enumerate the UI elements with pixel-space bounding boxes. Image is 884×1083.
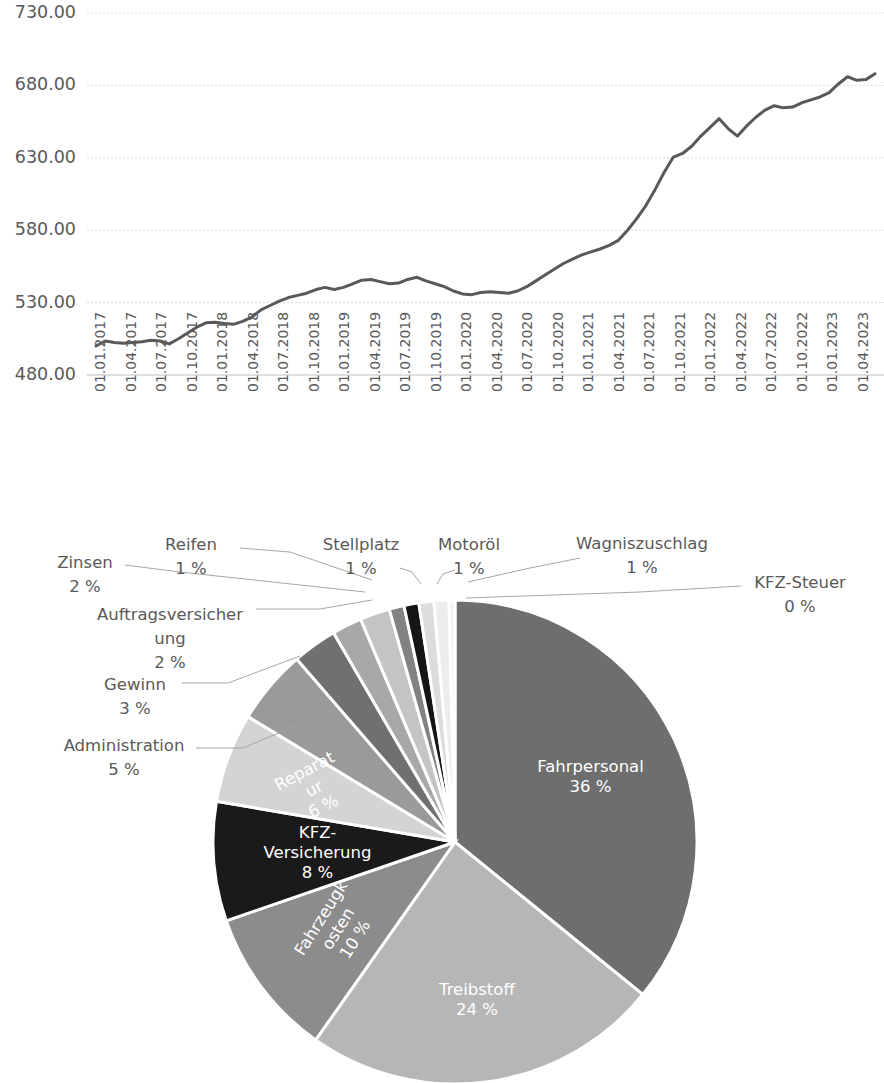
pie-slice-label: Zinsen2 % (57, 553, 113, 596)
pie-slice-label: Motoröl1 % (438, 535, 500, 578)
x-axis-tick-label: 01.07.2019 (397, 312, 413, 392)
pie-slice-percent: 2 % (154, 653, 185, 672)
line-chart-panel: 730.00680.00630.00580.00530.00480.00 01.… (0, 0, 884, 520)
pie-slice-percent: 1 % (626, 558, 657, 577)
pie-leader-line (125, 565, 365, 592)
x-axis-tick-label: 01.01.2023 (824, 312, 840, 392)
x-axis-tick-label: 01.10.2019 (428, 312, 444, 392)
pie-slice-percent: 5 % (108, 760, 139, 779)
x-axis-tick-label: 01.04.2021 (611, 312, 627, 392)
y-axis-tick-label: 630.00 (15, 147, 76, 167)
pie-chart-panel: Fahrpersonal36 %Treibstoff24 %Fahrzeugko… (0, 520, 884, 1083)
x-axis-tick-label: 01.04.2022 (733, 312, 749, 392)
x-axis-tick-label: 01.01.2017 (92, 312, 108, 392)
x-axis-tick-label: 01.04.2018 (245, 312, 261, 392)
pie-slice-percent: 1 % (175, 559, 206, 578)
x-axis-tick-label: 01.07.2022 (763, 312, 779, 392)
x-axis-tick-label: 01.07.2017 (153, 312, 169, 392)
pie-slice-label: KFZ-Steuer0 % (754, 573, 846, 616)
y-axis-tick-label: 730.00 (15, 2, 76, 22)
line-series-path (96, 74, 875, 346)
x-axis-tick-label: 01.10.2018 (306, 312, 322, 392)
x-axis-tick-label: 01.01.2021 (580, 312, 596, 392)
pie-slice-name: KFZ- (299, 823, 336, 842)
y-axis-tick-label: 580.00 (15, 219, 76, 239)
pie-slice-percent: 1 % (345, 559, 376, 578)
pie-leader-line (468, 558, 580, 582)
pie-slice-label: Wagniszuschlag1 % (576, 534, 708, 577)
pie-slice-percent: 24 % (456, 1000, 498, 1019)
x-axis-tick-label: 01.10.2022 (794, 312, 810, 392)
pie-slice-name: KFZ-Steuer (754, 573, 846, 592)
line-chart-svg: 730.00680.00630.00580.00530.00480.00 01.… (0, 0, 884, 520)
pie-slice-percent: 0 % (784, 597, 815, 616)
x-axis-tick-label: 01.07.2018 (275, 312, 291, 392)
pie-slice-name: Stellplatz (323, 535, 400, 554)
pie-leader-line (256, 600, 372, 609)
x-axis-tick-label: 01.04.2023 (855, 312, 871, 392)
pie-slice-percent: 2 % (69, 577, 100, 596)
pie-slice-percent: 8 % (302, 863, 333, 882)
x-axis-tick-label: 01.01.2019 (336, 312, 352, 392)
pie-slice-name: Administration (64, 736, 185, 755)
pie-chart-svg: Fahrpersonal36 %Treibstoff24 %Fahrzeugko… (0, 520, 884, 1083)
x-axis-tick-label: 01.10.2020 (550, 312, 566, 392)
y-axis-tick-label: 480.00 (15, 364, 76, 384)
pie-leader-line (466, 586, 741, 598)
y-axis-tick-label: 530.00 (15, 292, 76, 312)
pie-slice-name: Wagniszuschlag (576, 534, 708, 553)
pie-slice-name: Fahrpersonal (537, 757, 644, 776)
x-axis-tick-label: 01.01.2020 (458, 312, 474, 392)
x-axis-tick-label: 01.04.2017 (123, 312, 139, 392)
y-axis-tick-labels: 730.00680.00630.00580.00530.00480.00 (15, 2, 76, 384)
pie-slice-name: Versicherung (264, 843, 372, 862)
pie-slice-label: Gewinn3 % (104, 675, 166, 718)
pie-slice-percent: 36 % (570, 777, 612, 796)
pie-slice-name: ung (154, 629, 185, 648)
pie-slice-name: Zinsen (57, 553, 113, 572)
pie-slice-name: Treibstoff (438, 980, 515, 999)
series-group (96, 74, 875, 346)
pie-slice-name: Gewinn (104, 675, 166, 694)
pie-slice-name: Motoröl (438, 535, 500, 554)
y-axis-tick-label: 680.00 (15, 74, 76, 94)
x-axis-tick-label: 01.07.2021 (641, 312, 657, 392)
pie-slice-name: Auftragsversicher (97, 605, 243, 624)
x-axis-tick-label: 01.10.2021 (672, 312, 688, 392)
pie-slice-percent: 3 % (119, 699, 150, 718)
x-axis-tick-label: 01.04.2020 (489, 312, 505, 392)
pie-slice-label: Auftragsversicherung2 % (97, 605, 243, 672)
x-axis-tick-label: 01.10.2017 (184, 312, 200, 392)
x-axis-tick-label: 01.01.2022 (702, 312, 718, 392)
x-axis-tick-label: 01.07.2020 (519, 312, 535, 392)
x-axis-tick-label: 01.04.2019 (367, 312, 383, 392)
pie-leader-line (400, 568, 421, 584)
pie-slice-percent: 1 % (453, 559, 484, 578)
pie-slice-label: Administration5 % (64, 736, 185, 779)
pie-slice-label: Stellplatz1 % (323, 535, 400, 578)
pie-slice-name: Reifen (165, 535, 217, 554)
chart-page: 730.00680.00630.00580.00530.00480.00 01.… (0, 0, 884, 1083)
